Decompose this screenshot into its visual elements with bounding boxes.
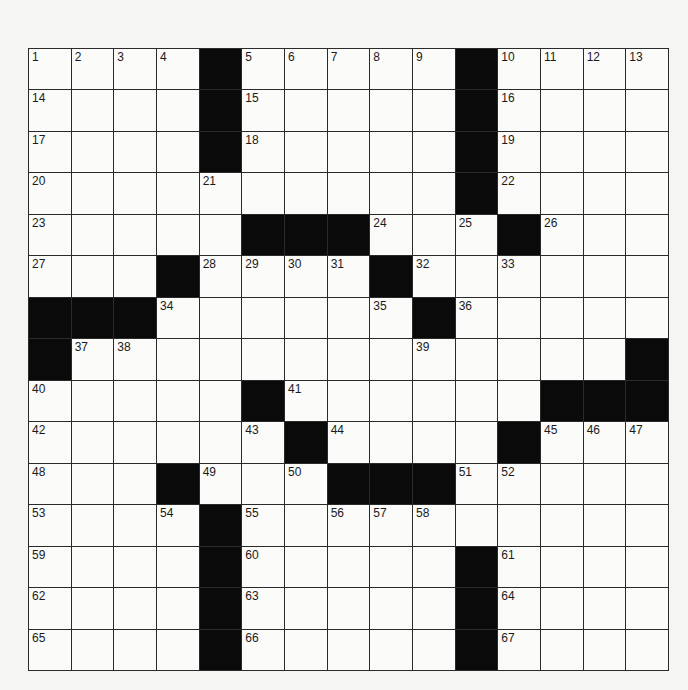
crossword-cell[interactable]: 11 xyxy=(541,49,583,89)
crossword-cell[interactable]: 9 xyxy=(413,49,455,89)
crossword-cell[interactable]: 45 xyxy=(541,422,583,462)
crossword-cell[interactable]: 42 xyxy=(29,422,71,462)
crossword-cell[interactable]: 7 xyxy=(328,49,370,89)
crossword-cell[interactable] xyxy=(626,464,668,504)
crossword-cell[interactable] xyxy=(584,588,626,628)
crossword-cell[interactable]: 1 xyxy=(29,49,71,89)
crossword-cell[interactable] xyxy=(541,173,583,213)
crossword-cell[interactable] xyxy=(72,547,114,587)
crossword-cell[interactable] xyxy=(541,132,583,172)
crossword-cell[interactable]: 25 xyxy=(456,215,498,255)
crossword-cell[interactable] xyxy=(285,630,327,670)
crossword-cell[interactable] xyxy=(72,173,114,213)
crossword-cell[interactable]: 47 xyxy=(626,422,668,462)
crossword-cell[interactable] xyxy=(328,547,370,587)
crossword-cell[interactable] xyxy=(541,505,583,545)
crossword-cell[interactable] xyxy=(413,215,455,255)
crossword-cell[interactable] xyxy=(328,588,370,628)
crossword-cell[interactable]: 38 xyxy=(114,339,156,379)
crossword-cell[interactable] xyxy=(626,547,668,587)
crossword-cell[interactable]: 33 xyxy=(498,256,540,296)
crossword-cell[interactable] xyxy=(328,630,370,670)
crossword-cell[interactable]: 15 xyxy=(242,90,284,130)
crossword-cell[interactable]: 18 xyxy=(242,132,284,172)
crossword-cell[interactable] xyxy=(456,256,498,296)
crossword-cell[interactable] xyxy=(626,215,668,255)
crossword-cell[interactable] xyxy=(626,256,668,296)
crossword-cell[interactable] xyxy=(370,547,412,587)
crossword-cell[interactable] xyxy=(626,505,668,545)
crossword-cell[interactable]: 28 xyxy=(200,256,242,296)
crossword-cell[interactable]: 40 xyxy=(29,381,71,421)
crossword-cell[interactable] xyxy=(72,132,114,172)
crossword-cell[interactable]: 39 xyxy=(413,339,455,379)
crossword-cell[interactable] xyxy=(72,464,114,504)
crossword-cell[interactable]: 55 xyxy=(242,505,284,545)
crossword-cell[interactable]: 10 xyxy=(498,49,540,89)
crossword-cell[interactable] xyxy=(157,588,199,628)
crossword-cell[interactable] xyxy=(413,381,455,421)
crossword-cell[interactable] xyxy=(370,381,412,421)
crossword-cell[interactable] xyxy=(456,422,498,462)
crossword-cell[interactable]: 4 xyxy=(157,49,199,89)
crossword-cell[interactable] xyxy=(584,464,626,504)
crossword-cell[interactable]: 32 xyxy=(413,256,455,296)
crossword-cell[interactable]: 65 xyxy=(29,630,71,670)
crossword-cell[interactable] xyxy=(626,298,668,338)
crossword-cell[interactable] xyxy=(200,381,242,421)
crossword-cell[interactable] xyxy=(413,588,455,628)
crossword-cell[interactable] xyxy=(584,173,626,213)
crossword-cell[interactable]: 49 xyxy=(200,464,242,504)
crossword-cell[interactable]: 60 xyxy=(242,547,284,587)
crossword-cell[interactable] xyxy=(584,298,626,338)
crossword-cell[interactable] xyxy=(200,422,242,462)
crossword-cell[interactable]: 67 xyxy=(498,630,540,670)
crossword-cell[interactable]: 66 xyxy=(242,630,284,670)
crossword-cell[interactable] xyxy=(242,173,284,213)
crossword-cell[interactable] xyxy=(200,298,242,338)
crossword-cell[interactable] xyxy=(114,464,156,504)
crossword-cell[interactable] xyxy=(72,505,114,545)
crossword-cell[interactable] xyxy=(413,630,455,670)
crossword-cell[interactable] xyxy=(72,256,114,296)
crossword-cell[interactable] xyxy=(200,215,242,255)
crossword-cell[interactable] xyxy=(157,215,199,255)
crossword-cell[interactable]: 62 xyxy=(29,588,71,628)
crossword-cell[interactable] xyxy=(584,215,626,255)
crossword-cell[interactable] xyxy=(626,588,668,628)
crossword-cell[interactable]: 20 xyxy=(29,173,71,213)
crossword-cell[interactable] xyxy=(114,630,156,670)
crossword-cell[interactable] xyxy=(157,339,199,379)
crossword-cell[interactable] xyxy=(626,132,668,172)
crossword-cell[interactable]: 24 xyxy=(370,215,412,255)
crossword-cell[interactable] xyxy=(157,173,199,213)
crossword-cell[interactable]: 51 xyxy=(456,464,498,504)
crossword-cell[interactable] xyxy=(541,90,583,130)
crossword-cell[interactable]: 19 xyxy=(498,132,540,172)
crossword-cell[interactable]: 56 xyxy=(328,505,370,545)
crossword-cell[interactable]: 3 xyxy=(114,49,156,89)
crossword-cell[interactable] xyxy=(285,588,327,628)
crossword-cell[interactable]: 46 xyxy=(584,422,626,462)
crossword-cell[interactable] xyxy=(541,298,583,338)
crossword-cell[interactable] xyxy=(200,339,242,379)
crossword-cell[interactable]: 34 xyxy=(157,298,199,338)
crossword-cell[interactable] xyxy=(114,256,156,296)
crossword-cell[interactable] xyxy=(242,298,284,338)
crossword-cell[interactable] xyxy=(328,90,370,130)
crossword-cell[interactable] xyxy=(413,173,455,213)
crossword-cell[interactable] xyxy=(72,588,114,628)
crossword-cell[interactable] xyxy=(285,505,327,545)
crossword-cell[interactable] xyxy=(328,132,370,172)
crossword-cell[interactable] xyxy=(285,132,327,172)
crossword-cell[interactable] xyxy=(626,90,668,130)
crossword-cell[interactable] xyxy=(370,422,412,462)
crossword-cell[interactable] xyxy=(285,90,327,130)
crossword-cell[interactable] xyxy=(413,90,455,130)
crossword-cell[interactable] xyxy=(626,630,668,670)
crossword-cell[interactable] xyxy=(370,630,412,670)
crossword-cell[interactable] xyxy=(584,132,626,172)
crossword-cell[interactable]: 41 xyxy=(285,381,327,421)
crossword-cell[interactable]: 12 xyxy=(584,49,626,89)
crossword-cell[interactable]: 37 xyxy=(72,339,114,379)
